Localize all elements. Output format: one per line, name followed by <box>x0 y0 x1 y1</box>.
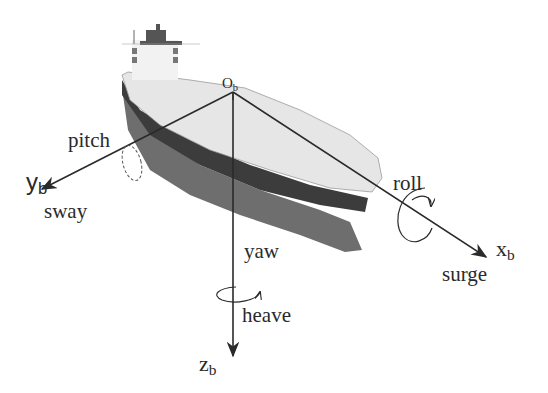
y-axis-label: yb <box>26 170 47 198</box>
roll-label: roll <box>393 173 422 194</box>
ship-hull <box>122 72 382 252</box>
yaw-rotation-icon <box>217 287 260 302</box>
pitch-label: pitch <box>68 130 110 151</box>
x-axis-label: xb <box>496 238 515 262</box>
heave-label: heave <box>242 305 291 326</box>
roll-rotation-icon <box>398 188 432 242</box>
ship-illustration <box>0 0 548 393</box>
z-axis-label: zb <box>199 353 216 377</box>
surge-label: surge <box>442 264 487 285</box>
yaw-label: yaw <box>244 241 279 262</box>
ship-motion-diagram: Ob pitch yb sway roll xb surge yaw heave… <box>0 0 548 393</box>
ship-superstructure <box>122 24 200 80</box>
origin-label: Ob <box>222 76 238 93</box>
sway-label: sway <box>44 201 87 222</box>
